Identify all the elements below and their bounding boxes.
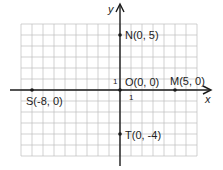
- x-tick-label: 1: [129, 93, 134, 102]
- point-s: [30, 88, 34, 92]
- point-n-label: N(0, 5): [125, 29, 159, 41]
- y-axis-label: y: [107, 3, 115, 15]
- point-o-label: O(0, 0): [125, 76, 159, 88]
- coordinate-plane-figure: x y 1 1 N(0, 5) O(0, 0) M(5, 0) S(-8, 0)…: [0, 0, 223, 170]
- point-n: [118, 33, 122, 37]
- coordinate-plane: x y 1 1 N(0, 5) O(0, 0) M(5, 0) S(-8, 0)…: [0, 0, 223, 170]
- point-o: [118, 88, 122, 92]
- y-tick-label: 1: [113, 77, 118, 86]
- point-m: [173, 88, 177, 92]
- point-t-label: T(0, -4): [125, 129, 161, 141]
- point-s-label: S(-8, 0): [26, 95, 63, 107]
- x-axis-label: x: [204, 93, 211, 105]
- point-m-label: M(5, 0): [170, 75, 205, 87]
- point-t: [118, 132, 122, 136]
